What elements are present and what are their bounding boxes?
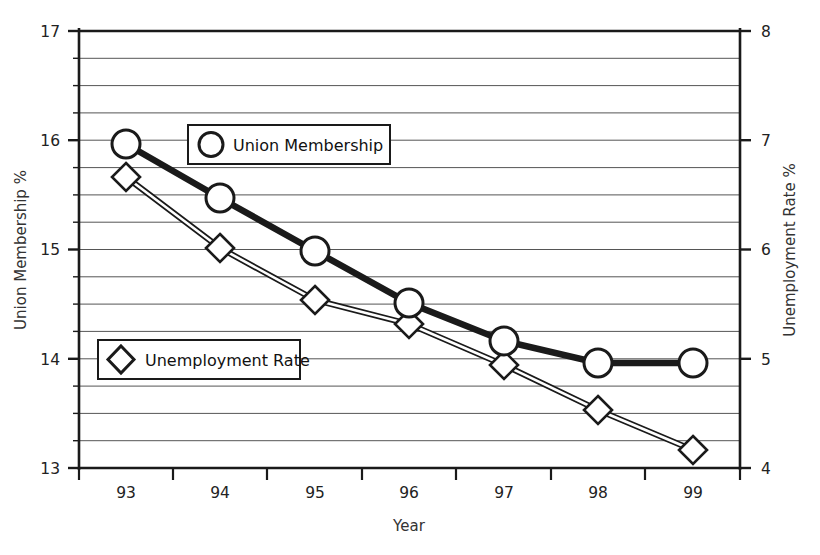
x-tick-label: 98	[588, 484, 608, 502]
x-axis-ticks	[79, 468, 740, 480]
data-marker-circle	[112, 130, 140, 158]
x-tick-label: 97	[494, 484, 514, 502]
x-tick-label: 93	[116, 484, 136, 502]
data-marker-circle	[301, 237, 329, 265]
left-y-tick-label: 13	[40, 460, 60, 478]
data-marker-circle	[490, 327, 518, 355]
left-y-tick-label: 17	[40, 23, 60, 41]
left-y-tick-label: 16	[40, 132, 60, 150]
legend-label: Union Membership	[233, 136, 383, 155]
left-y-axis-title: Union Membership %	[12, 170, 30, 330]
right-y-tick-label: 8	[761, 23, 771, 41]
right-y-tick-label: 4	[761, 460, 771, 478]
right-y-tick-label: 5	[761, 351, 771, 369]
line-chart-svg: 17 16 15 14 13 8 7 6 5 4 93 94 95 96 97 …	[0, 0, 820, 555]
legend-label: Unemployment Rate	[145, 351, 310, 370]
x-axis-title: Year	[392, 517, 426, 535]
x-tick-label: 99	[683, 484, 703, 502]
data-marker-circle	[206, 184, 234, 212]
right-y-tick-label: 7	[761, 132, 771, 150]
right-axis-major-ticks	[740, 31, 751, 468]
legend-entry-unemployment-rate[interactable]: Unemployment Rate	[98, 340, 310, 379]
data-marker-circle	[395, 289, 423, 317]
data-marker-circle	[584, 349, 612, 377]
right-y-axis-title: Unemployment Rate %	[781, 163, 799, 336]
x-tick-label: 95	[305, 484, 325, 502]
left-axis-major-ticks	[68, 31, 79, 468]
data-marker-circle	[679, 349, 707, 377]
chart-figure: 17 16 15 14 13 8 7 6 5 4 93 94 95 96 97 …	[0, 0, 820, 555]
left-y-tick-label: 15	[40, 241, 60, 259]
legend-entry-union-membership[interactable]: Union Membership	[188, 125, 390, 164]
x-tick-label: 96	[399, 484, 419, 502]
legend-circle-icon	[199, 133, 223, 157]
right-y-tick-label: 6	[761, 241, 771, 259]
left-y-tick-label: 14	[40, 351, 60, 369]
x-tick-label: 94	[210, 484, 230, 502]
